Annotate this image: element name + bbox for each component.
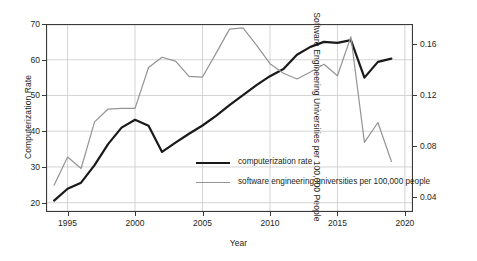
y-tick-mark-right [413,44,417,45]
x-axis-label: Year [0,238,477,248]
data-series-group [54,28,391,201]
y-tick-label-left: 40 [14,126,40,136]
y-tick-mark-right [413,197,417,198]
x-tick-mark [203,212,204,216]
x-tick-label: 2020 [385,218,425,228]
x-tick-mark [337,212,338,216]
y-tick-label-right: 0.04 [420,192,454,202]
y-tick-label-left: 50 [14,90,40,100]
y-tick-mark-right [413,146,417,147]
y-tick-label-right: 0.08 [420,141,454,151]
x-tick-label: 2000 [115,218,155,228]
legend-label: computerization rate [238,157,312,166]
x-tick-label: 2005 [183,218,223,228]
x-tick-label: 1995 [48,218,88,228]
plot-area: computerization ratesoftware engineering… [46,24,413,212]
y-tick-label-right: 0.12 [420,90,454,100]
y-tick-label-left: 70 [14,19,40,29]
legend-swatch [196,182,230,183]
y-tick-label-left: 30 [14,162,40,172]
x-tick-label: 2015 [317,218,357,228]
x-tick-mark [135,212,136,216]
legend-swatch [196,162,230,164]
x-tick-mark [68,212,69,216]
chart-figure: Computerization Rate Software Engineerin… [0,0,477,261]
y-tick-mark-right [413,95,417,96]
y-tick-label-right: 0.16 [420,39,454,49]
y-tick-label-left: 20 [14,198,40,208]
x-tick-label: 2010 [250,218,290,228]
x-tick-mark [405,212,406,216]
legend-label: software engineering universities per 10… [238,177,430,186]
y-tick-label-left: 60 [14,55,40,65]
x-tick-mark [270,212,271,216]
